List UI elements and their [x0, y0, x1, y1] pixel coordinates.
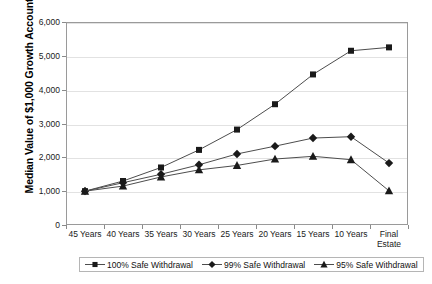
legend-item-label: 95% Safe Withdrawal — [336, 260, 417, 270]
y-axis-tick-label: 3,000 — [18, 119, 60, 129]
series-triangle — [81, 152, 393, 195]
x-axis-tick-label: 40 Years — [106, 229, 139, 239]
x-axis-tick-mark — [332, 225, 333, 229]
data-point-marker — [348, 48, 354, 54]
data-point-marker — [271, 142, 279, 150]
x-axis-tick-mark — [294, 225, 295, 229]
data-point-marker — [234, 127, 240, 133]
data-point-marker — [233, 150, 241, 158]
legend-marker-triangle-icon — [314, 259, 334, 270]
legend-marker-square-icon — [85, 259, 105, 270]
data-point-marker — [309, 134, 317, 142]
y-axis-tick-label: 4,000 — [18, 85, 60, 95]
y-axis-tick-label: 5,000 — [18, 51, 60, 61]
series-square — [82, 44, 392, 194]
data-series-layer — [66, 22, 408, 225]
x-axis-tick-label: 10 Years — [334, 229, 367, 239]
data-point-marker — [385, 186, 393, 194]
x-axis-tick-label: 15 Years — [296, 229, 329, 239]
y-axis-tick-label: 6,000 — [18, 17, 60, 27]
legend-marker-diamond-icon — [202, 259, 222, 270]
series-line — [85, 47, 389, 191]
data-point-marker — [158, 164, 164, 170]
legend-item-label: 100% Safe Withdrawal — [107, 260, 193, 270]
y-axis-tick-label: 1,000 — [18, 186, 60, 196]
data-point-marker — [272, 101, 278, 107]
data-point-marker — [310, 71, 316, 77]
x-axis-tick-label: 35 Years — [144, 229, 177, 239]
legend-item[interactable]: 99% Safe Withdrawal — [202, 259, 305, 270]
data-point-marker — [385, 159, 393, 167]
y-axis-tick-label: 2,000 — [18, 152, 60, 162]
x-axis-tick-mark — [370, 225, 371, 229]
data-point-marker — [386, 44, 392, 50]
x-axis-tick-label: 20 Years — [258, 229, 291, 239]
data-point-marker — [347, 132, 355, 140]
legend-item[interactable]: 100% Safe Withdrawal — [85, 259, 193, 270]
x-axis-tick-mark — [142, 225, 143, 229]
x-axis-tick-mark — [66, 225, 67, 229]
x-axis-tick-label: 30 Years — [182, 229, 215, 239]
legend-item-label: 99% Safe Withdrawal — [224, 260, 305, 270]
x-axis-tick-mark — [408, 225, 409, 229]
chart-legend: 100% Safe Withdrawal99% Safe Withdrawal9… — [79, 257, 424, 272]
x-axis-tick-mark — [104, 225, 105, 229]
x-axis-tick-mark — [218, 225, 219, 229]
data-point-marker — [196, 147, 202, 153]
data-point-marker — [309, 152, 317, 160]
x-axis-tick-mark — [256, 225, 257, 229]
x-axis-tick-label: 25 Years — [220, 229, 253, 239]
chart-container: Median Value of $1,000 Growth Account 01… — [0, 0, 432, 284]
y-axis-tick-label: 0 — [18, 220, 60, 230]
x-axis-tick-label: 45 Years — [68, 229, 101, 239]
x-axis-tick-mark — [180, 225, 181, 229]
legend-item[interactable]: 95% Safe Withdrawal — [314, 259, 417, 270]
x-axis-tick-label: FinalEstate — [377, 229, 401, 249]
